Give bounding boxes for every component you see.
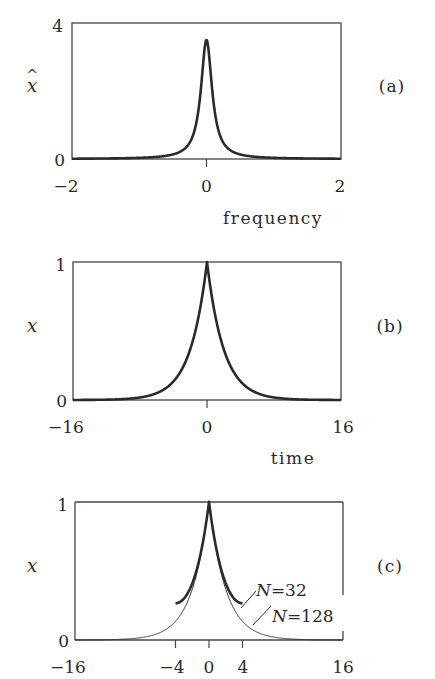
panel-c-xtick-label-0: 0 [204, 657, 215, 677]
panel-a-ytick-max: 4 [52, 16, 63, 36]
panel-a-ylabel-hat-icon: ^ [26, 67, 38, 83]
panel-c-tag: (c) [377, 556, 403, 576]
panel-b-ytick-max: 1 [55, 255, 66, 275]
panel-a-tag: (a) [379, 76, 405, 96]
panel-b-xtick-label-mid: 0 [202, 417, 213, 437]
panel-a-xtick-label-left: −2 [53, 176, 78, 196]
panel-c-n32-leader [241, 591, 256, 608]
panel-c-xtick-label-16: 16 [332, 657, 354, 677]
panel-c-n128-label: N=128 [271, 606, 334, 626]
panel-c-n32-curve [176, 502, 243, 603]
panel-c-ytick-max: 1 [57, 495, 68, 515]
panel-c: 1 0 −16 −4 0 4 16 x (c) N=32 N=128 [27, 495, 403, 677]
panel-b-xlabel: time [271, 448, 315, 468]
panel-a-spectrum-curve [72, 40, 341, 159]
panel-c-xtick-label-minus4: −4 [159, 657, 184, 677]
panel-b-ylabel: x [27, 315, 37, 336]
panel-a-xtick-label-right: 2 [335, 176, 346, 196]
panel-b-xtick-label-right: 16 [332, 417, 354, 437]
panel-c-xtick-label-4: 4 [238, 657, 249, 677]
panel-a-xlabel: frequency [223, 208, 323, 228]
panel-b-ytick-0: 0 [56, 391, 67, 411]
panel-a-xtick-label-mid: 0 [201, 176, 212, 196]
panel-c-n128-leader [253, 606, 271, 625]
panel-b-frame [73, 262, 341, 400]
panel-a-ytick-0: 0 [54, 150, 65, 170]
panel-b-tag: (b) [376, 316, 403, 336]
panel-b-signal-curve [73, 262, 341, 400]
panel-c-ytick-0: 0 [58, 631, 69, 651]
panel-c-xtick-label-minus16: −16 [50, 657, 86, 677]
panel-c-n32-label: N=32 [255, 580, 307, 600]
panel-b-xtick-label-left: −16 [48, 417, 84, 437]
figure: 4 0 −2 0 2 frequency x ^ (a) 1 0 −16 0 1… [0, 0, 435, 679]
panel-a: 4 0 −2 0 2 frequency x ^ (a) [26, 16, 405, 228]
panel-b: 1 0 −16 0 16 time x (b) [27, 255, 404, 468]
panel-c-ylabel: x [27, 555, 37, 576]
